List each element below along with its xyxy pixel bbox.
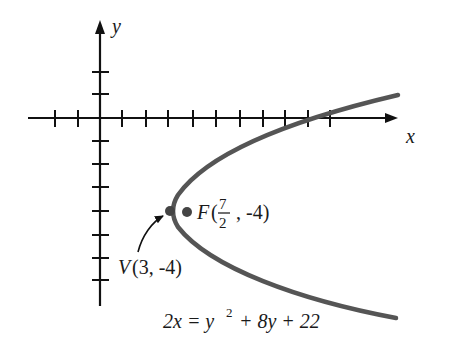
parabola-diagram: y x F ( 7 2 , -4) V (3, -4) 2x = y 2 + 8… — [0, 0, 449, 352]
vertex-pointer-arrow-icon — [138, 216, 163, 252]
x-axis-label: x — [405, 125, 415, 147]
focus-point — [182, 207, 192, 217]
svg-text:(3, -4): (3, -4) — [132, 256, 182, 279]
x-axis — [28, 110, 398, 127]
focus-frac-numerator: 7 — [219, 196, 227, 212]
svg-text:2x = y: 2x = y — [163, 310, 214, 333]
equation-label: 2x = y 2 + 8y + 22 — [163, 305, 320, 333]
vertex-label: V (3, -4) — [118, 256, 182, 279]
focus-frac-denominator: 2 — [219, 215, 227, 231]
svg-text:2: 2 — [226, 305, 233, 320]
svg-text:F: F — [196, 201, 210, 223]
y-axis-label: y — [110, 15, 121, 38]
vertex-point — [165, 206, 175, 216]
y-axis — [92, 20, 109, 306]
y-axis-arrow-icon — [95, 20, 105, 34]
svg-text:V: V — [118, 256, 133, 278]
x-axis-arrow-icon — [385, 113, 398, 123]
focus-label: F ( 7 2 , -4) — [196, 196, 269, 231]
svg-text:, -4): , -4) — [236, 201, 269, 224]
svg-text:+ 8y + 22: + 8y + 22 — [234, 310, 320, 333]
svg-text:(: ( — [211, 201, 218, 224]
